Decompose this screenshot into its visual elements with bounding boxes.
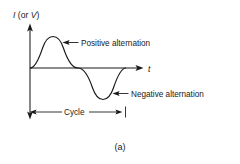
y-axis-label-connector: (or	[15, 10, 30, 20]
y-axis-label-paren-close: )	[36, 10, 39, 20]
y-axis-label: I (or V)	[13, 10, 39, 20]
positive-alternation-label: Positive alternation	[81, 39, 151, 48]
figure-caption: (a)	[115, 142, 126, 152]
negative-alternation-label: Negative alternation	[131, 90, 204, 99]
waveform-figure: Positive alternation Negative alternatio…	[0, 0, 240, 164]
waveform-diagram: Positive alternation Negative alternatio…	[0, 0, 240, 164]
figure-background	[0, 0, 240, 164]
cycle-label: Cycle	[64, 108, 85, 117]
